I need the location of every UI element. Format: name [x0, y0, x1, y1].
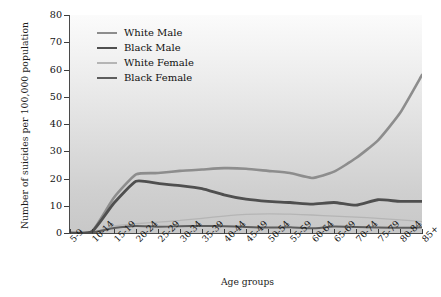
y-tick-label: 20 [36, 173, 62, 184]
legend-label: White Female [124, 56, 194, 69]
y-tick-mark [64, 233, 69, 234]
legend-swatch-icon [97, 47, 117, 49]
y-tick-label: 80 [36, 9, 62, 20]
y-tick-mark [64, 124, 69, 125]
y-tick-mark [64, 97, 69, 98]
legend-label: Black Male [124, 41, 181, 54]
legend-item: White Male [97, 26, 194, 39]
legend-label: White Male [124, 26, 182, 39]
y-axis-spine [69, 15, 70, 234]
y-axis-title: Number of suicides per 100,000 populatio… [19, 6, 30, 246]
legend-label: Black Female [124, 71, 192, 84]
y-tick-mark [64, 15, 69, 16]
y-tick-label: 70 [36, 36, 62, 47]
y-tick-label: 50 [36, 91, 62, 102]
y-tick-label: 30 [36, 145, 62, 156]
y-tick-label: 60 [36, 64, 62, 75]
x-axis-title: Age groups [70, 276, 425, 287]
y-tick-mark [64, 151, 69, 152]
legend-item: Black Male [97, 41, 194, 54]
legend-item: White Female [97, 56, 194, 69]
y-tick-label: 40 [36, 118, 62, 129]
legend-swatch-icon [97, 32, 117, 34]
x-tick-label: 85+ [420, 224, 441, 245]
y-tick-mark [64, 70, 69, 71]
y-tick-mark [64, 179, 69, 180]
legend-swatch-icon [97, 77, 117, 79]
y-tick-mark [64, 206, 69, 207]
legend-item: Black Female [97, 71, 194, 84]
series-line [70, 75, 422, 233]
y-tick-label: 10 [36, 200, 62, 211]
legend-swatch-icon [97, 62, 117, 64]
chart-legend: White MaleBlack MaleWhite FemaleBlack Fe… [97, 26, 194, 84]
y-tick-label: 0 [36, 227, 62, 238]
y-tick-mark [64, 42, 69, 43]
